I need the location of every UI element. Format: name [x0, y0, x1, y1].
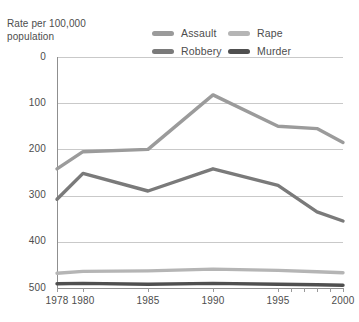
- x-axis-label-1995: 1995: [258, 295, 298, 306]
- y-axis-label-200: 300: [16, 189, 46, 200]
- y-axis-label-300: 200: [16, 143, 46, 154]
- x-axis-label-1990: 1990: [193, 295, 233, 306]
- series-line-rape: [57, 269, 343, 273]
- y-axis-label-0: 500: [16, 282, 46, 293]
- y-axis-label-400: 100: [16, 97, 46, 108]
- y-axis-label-500: 0: [16, 51, 46, 62]
- x-axis-label-1985: 1985: [128, 295, 168, 306]
- x-axis-label-1980: 1980: [63, 295, 103, 306]
- series-line-assault: [57, 95, 343, 169]
- x-axis-label-2000: 2000: [323, 295, 359, 306]
- series-line-murder: [57, 283, 343, 285]
- y-axis-label-100: 400: [16, 235, 46, 246]
- series-line-robbery: [57, 169, 343, 221]
